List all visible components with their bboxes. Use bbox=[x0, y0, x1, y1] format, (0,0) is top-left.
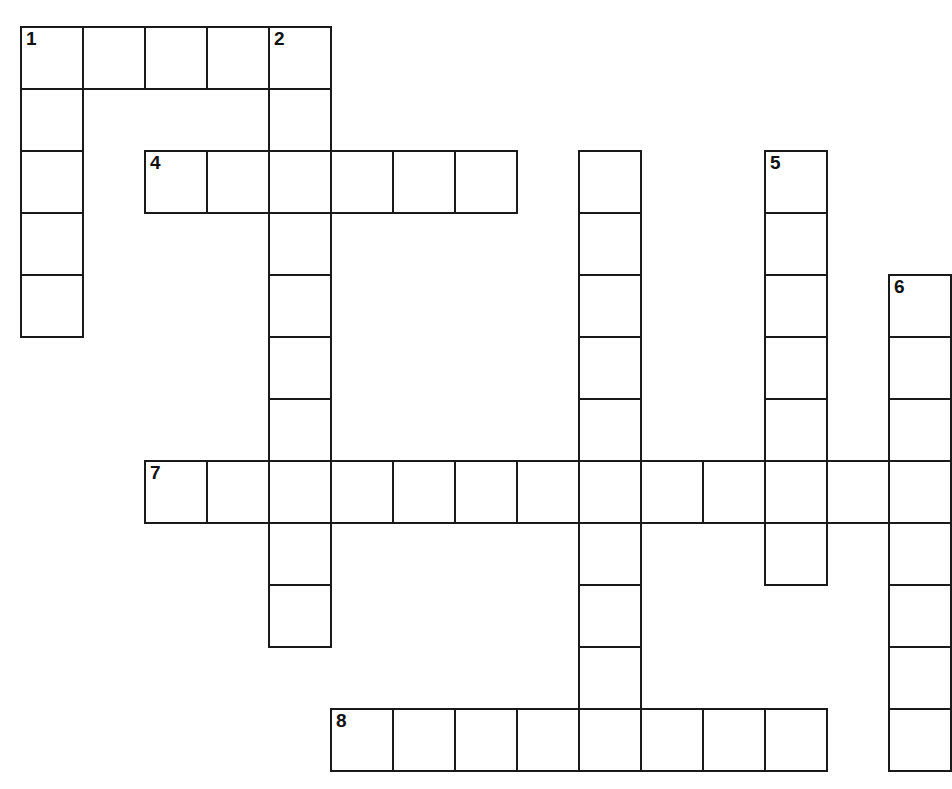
crossword-cell[interactable] bbox=[20, 212, 84, 276]
crossword-cell[interactable]: 8 bbox=[330, 708, 394, 772]
crossword-cell[interactable] bbox=[888, 460, 952, 524]
crossword-cell[interactable] bbox=[764, 212, 828, 276]
crossword-cell[interactable] bbox=[516, 460, 580, 524]
crossword-cell[interactable]: 6 bbox=[888, 274, 952, 338]
crossword-cell[interactable] bbox=[330, 460, 394, 524]
crossword-cell[interactable] bbox=[268, 274, 332, 338]
crossword-cell[interactable] bbox=[268, 88, 332, 152]
crossword-cell[interactable] bbox=[578, 274, 642, 338]
crossword-cell[interactable] bbox=[268, 212, 332, 276]
crossword-cell[interactable] bbox=[20, 274, 84, 338]
crossword-cell[interactable] bbox=[764, 274, 828, 338]
crossword-cell[interactable] bbox=[764, 460, 828, 524]
crossword-cell[interactable] bbox=[516, 708, 580, 772]
cell-number-4: 4 bbox=[150, 153, 160, 173]
crossword-cell[interactable] bbox=[888, 336, 952, 400]
crossword-cell[interactable]: 7 bbox=[144, 460, 208, 524]
crossword-cell[interactable] bbox=[578, 708, 642, 772]
cell-number-5: 5 bbox=[770, 153, 780, 173]
crossword-cell[interactable] bbox=[20, 88, 84, 152]
crossword-cell[interactable] bbox=[578, 150, 642, 214]
crossword-cell[interactable] bbox=[392, 708, 456, 772]
cell-number-7: 7 bbox=[150, 463, 160, 483]
crossword-cell[interactable] bbox=[578, 460, 642, 524]
crossword-cell[interactable] bbox=[578, 398, 642, 462]
crossword-cell[interactable] bbox=[454, 460, 518, 524]
cell-number-6: 6 bbox=[894, 277, 904, 297]
crossword-cell[interactable] bbox=[454, 150, 518, 214]
crossword-cell[interactable] bbox=[888, 708, 952, 772]
crossword-cell[interactable] bbox=[764, 398, 828, 462]
crossword-cell[interactable] bbox=[640, 460, 704, 524]
crossword-cell[interactable] bbox=[454, 708, 518, 772]
crossword-cell[interactable] bbox=[206, 460, 270, 524]
crossword-cell[interactable] bbox=[888, 646, 952, 710]
crossword-cell[interactable] bbox=[206, 26, 270, 90]
crossword-cell[interactable] bbox=[578, 336, 642, 400]
crossword-cell[interactable] bbox=[764, 522, 828, 586]
crossword-cell[interactable] bbox=[268, 150, 332, 214]
crossword-cell[interactable]: 5 bbox=[764, 150, 828, 214]
crossword-cell[interactable] bbox=[764, 708, 828, 772]
crossword-cell[interactable] bbox=[392, 150, 456, 214]
crossword-cell[interactable] bbox=[20, 150, 84, 214]
crossword-cell[interactable] bbox=[702, 708, 766, 772]
crossword-cell[interactable] bbox=[268, 460, 332, 524]
crossword-cell[interactable] bbox=[392, 460, 456, 524]
cell-number-2: 2 bbox=[274, 29, 284, 49]
crossword-cell[interactable] bbox=[888, 584, 952, 648]
crossword-cell[interactable] bbox=[578, 584, 642, 648]
crossword-cell[interactable] bbox=[764, 336, 828, 400]
crossword-cell[interactable] bbox=[82, 26, 146, 90]
crossword-cell[interactable] bbox=[888, 522, 952, 586]
crossword-cell[interactable] bbox=[702, 460, 766, 524]
cell-number-8: 8 bbox=[336, 711, 346, 731]
crossword-cell[interactable]: 2 bbox=[268, 26, 332, 90]
crossword-cell[interactable] bbox=[888, 398, 952, 462]
crossword-cell[interactable] bbox=[268, 336, 332, 400]
crossword-cell[interactable] bbox=[640, 708, 704, 772]
crossword-cell[interactable] bbox=[144, 26, 208, 90]
crossword-cell[interactable] bbox=[578, 212, 642, 276]
cell-number-1: 1 bbox=[26, 29, 36, 49]
crossword-cell[interactable]: 1 bbox=[20, 26, 84, 90]
crossword-cell[interactable] bbox=[826, 460, 890, 524]
crossword-cell[interactable]: 4 bbox=[144, 150, 208, 214]
crossword-cell[interactable] bbox=[578, 522, 642, 586]
crossword-cell[interactable] bbox=[268, 522, 332, 586]
crossword-cell[interactable] bbox=[268, 398, 332, 462]
crossword-cell[interactable] bbox=[330, 150, 394, 214]
crossword-cell[interactable] bbox=[206, 150, 270, 214]
crossword-cell[interactable] bbox=[268, 584, 332, 648]
crossword-cell[interactable] bbox=[578, 646, 642, 710]
